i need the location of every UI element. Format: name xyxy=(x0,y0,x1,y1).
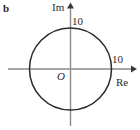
real-axis-arrow-icon xyxy=(131,65,137,72)
imaginary-axis-label: Im xyxy=(52,2,64,13)
imaginary-axis-tick-label: 10 xyxy=(72,16,83,27)
real-axis-label: Re xyxy=(116,77,128,88)
imaginary-axis-arrow-icon xyxy=(67,3,74,9)
real-axis-tick-label: 10 xyxy=(112,54,123,65)
panel-label: b xyxy=(3,3,9,14)
origin-label: O xyxy=(57,71,65,82)
plot-canvas xyxy=(0,0,140,130)
complex-plane-figure: b Im 10 Re 10 O xyxy=(0,0,140,130)
